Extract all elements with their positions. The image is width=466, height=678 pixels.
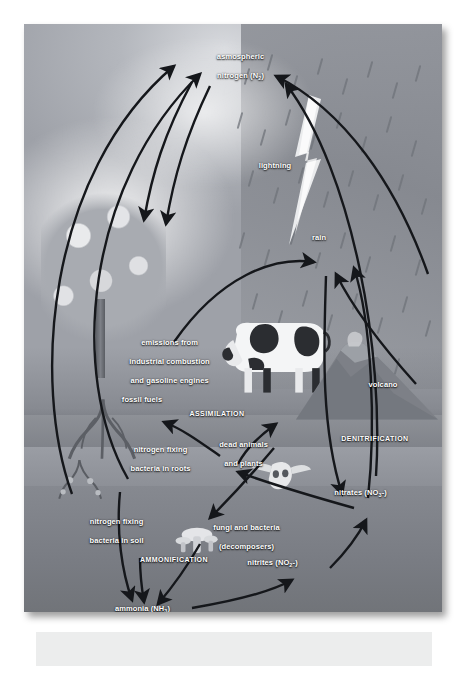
nitrates-text: nitrates (NO <box>334 488 378 497</box>
label-dead-animals-plants: dead animals and plants <box>194 430 280 478</box>
emissions-line1: emissions from <box>141 338 198 347</box>
atmospheric-nitrogen-subscript: 2 <box>258 74 261 80</box>
label-ammonia: ammonia (NH3) <box>90 594 182 612</box>
label-volcano: volcano <box>358 380 408 390</box>
label-bacteria-in-roots: nitrogen fixing bacteria in roots <box>104 435 204 483</box>
diagram-page: asmospheric nitrogen (N2) lightning rain… <box>0 0 466 678</box>
fungi-line1: fungi and bacteria <box>213 523 279 532</box>
bacteria-soil-line2: bacteria in soil <box>89 536 143 545</box>
ammonia-text: ammonia (NH <box>115 604 164 612</box>
label-nitrates: nitrates (NO3-) <box>312 478 396 509</box>
atmospheric-nitrogen-line1: asmospheric <box>217 52 264 61</box>
nitrites-charge: -) <box>293 558 298 567</box>
nitrites-text: nitrites (NO <box>247 558 289 567</box>
label-denitrification: DENITRIFICATION <box>320 434 430 444</box>
nitrates-charge: -) <box>382 488 387 497</box>
atmospheric-nitrogen-line2: nitrogen (N <box>217 71 258 80</box>
label-lightning: lightning <box>250 161 300 171</box>
emissions-line2: industrial combustion <box>129 357 209 366</box>
label-assimilation: ASSIMILATION <box>172 409 262 419</box>
bacteria-soil-line1: nitrogen fixing <box>90 517 144 526</box>
nitrogen-cycle-illustration: asmospheric nitrogen (N2) lightning rain… <box>24 24 442 612</box>
label-ammonification: AMMONIFICATION <box>122 555 226 565</box>
caption-bar <box>36 632 432 666</box>
emissions-line3: and gasoline engines <box>130 376 208 385</box>
label-emissions: emissions from industrial combustion and… <box>98 328 228 395</box>
label-atmospheric-nitrogen: asmospheric nitrogen (N2) <box>186 42 282 92</box>
label-fossil-fuels: fossil fuels <box>112 395 172 405</box>
bacteria-roots-line2: bacteria in roots <box>131 464 191 473</box>
ammonia-close-paren: ) <box>168 604 171 612</box>
label-rain: rain <box>302 233 336 243</box>
dead-line2: and plants <box>224 459 263 468</box>
bacteria-roots-line1: nitrogen fixing <box>134 445 188 454</box>
dead-line1: dead animals <box>219 440 268 449</box>
label-nitrites: nitrites (NO2-) <box>224 548 308 579</box>
label-bacteria-in-soil: nitrogen fixing bacteria in soil <box>60 507 160 555</box>
